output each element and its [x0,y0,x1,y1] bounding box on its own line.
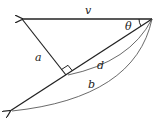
vector-projection-diagram: v θ a d b [0,0,163,118]
theta-angle-arc [139,19,141,26]
label-a: a [35,51,42,64]
label-d: d [97,59,104,72]
label-b: b [88,78,95,91]
label-theta: θ [125,20,132,33]
label-v: v [85,4,92,17]
perpendicular-a-line [22,19,66,75]
right-angle-marker [62,65,73,71]
